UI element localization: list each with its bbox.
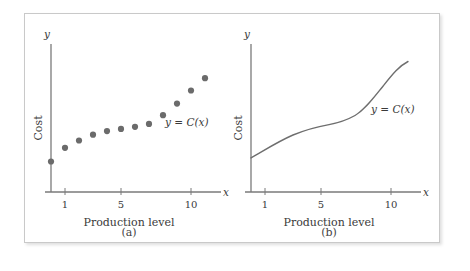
x-tick-label-10-a: 10 [185,199,198,210]
data-point [146,121,152,127]
data-point [174,101,180,107]
scatter-plot-a: y x 1 5 10 y = C(x) Cost [25,14,233,226]
panel-b: y x 1 5 10 y = C(x) Cost Production leve… [225,14,433,244]
panel-a: y x 1 5 10 y = C(x) Cost [25,14,233,244]
data-point [62,145,68,151]
panel-caption-b: (b) [225,226,433,239]
data-point [90,132,96,138]
y-axis-symbol-b: y [243,28,251,40]
y-axis-title-a: Cost [32,115,45,141]
line-plot-b: y x 1 5 10 y = C(x) Cost Production leve… [225,14,433,226]
data-point [202,75,208,81]
curve-label-b: y = C(x) [370,103,415,115]
data-point [76,137,82,143]
y-axis-title-b: Cost [232,115,245,141]
x-axis-title-b: Production level [284,216,375,226]
y-axis-symbol-a: y [43,28,51,40]
curve-label-a: y = C(x) [164,116,209,128]
x-tick-label-10-b: 10 [385,199,398,210]
x-tick-label-1-b: 1 [262,199,268,210]
data-point [132,124,138,130]
x-tick-label-1-a: 1 [62,199,68,210]
data-point [48,158,54,164]
panel-caption-a: (a) [25,226,233,239]
x-axis-title-a: Production level [84,216,175,226]
data-point [104,128,110,134]
data-point [118,126,124,132]
data-point [188,87,194,93]
x-tick-label-5-a: 5 [118,199,124,210]
figure-frame: y x 1 5 10 y = C(x) Cost [24,13,440,243]
x-tick-label-5-b: 5 [318,199,324,210]
x-axis-symbol-b: x [423,186,429,198]
